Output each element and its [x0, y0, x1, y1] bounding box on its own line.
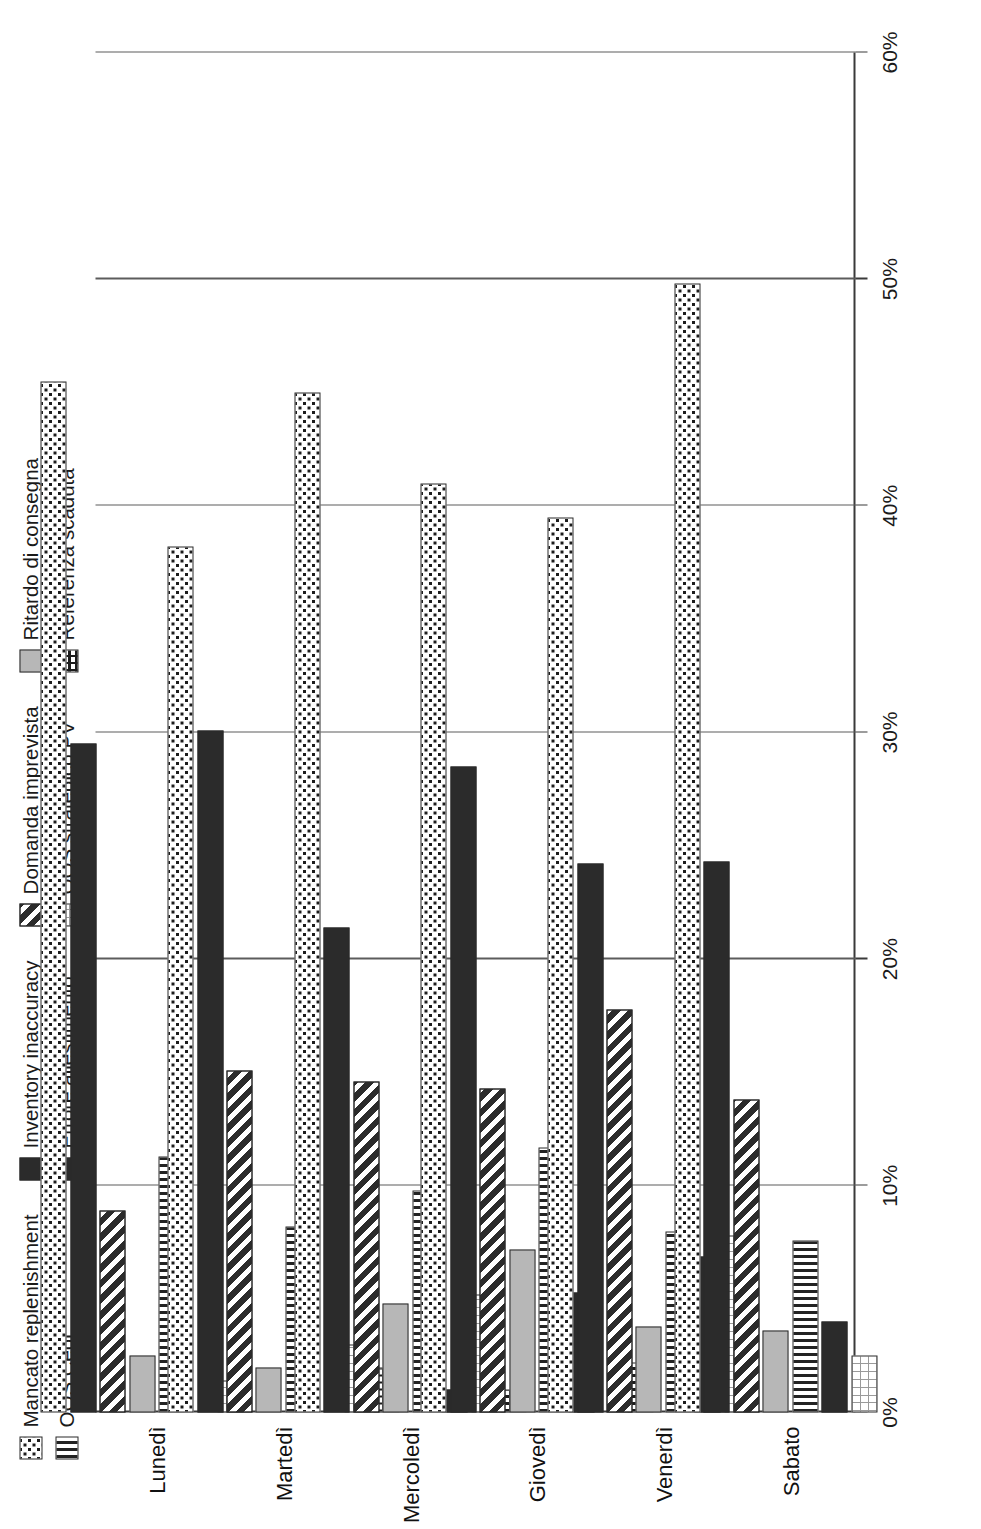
- legend-item: Domanda imprevista: [18, 706, 42, 926]
- axis-tick-label: 60%: [877, 31, 901, 73]
- axis-tick-label: 10%: [877, 1164, 901, 1206]
- legend-item-label: Domanda imprevista: [18, 706, 42, 894]
- bar-segment: [577, 863, 603, 1412]
- legend-item: Inventory inaccuracy: [18, 960, 42, 1180]
- bar-segment: [255, 1367, 281, 1412]
- category-label: Venerdì: [651, 1426, 677, 1502]
- bar-segment: [197, 730, 223, 1412]
- bar-segment: [821, 1321, 847, 1412]
- legend-item: Ritardo di consegna: [18, 458, 42, 672]
- bar-row: Sabato: [728, 52, 855, 1412]
- category-label: Lunedì: [144, 1426, 170, 1493]
- legend-item: Mancato replenishment: [18, 1214, 42, 1459]
- axis-tick-label: 40%: [877, 484, 901, 526]
- axis-tick-label: 0%: [877, 1397, 901, 1427]
- legend-swatch-icon: [19, 903, 42, 926]
- bar-segment: [450, 766, 476, 1412]
- legend-swatch-icon: [19, 1436, 42, 1459]
- category-label: Sabato: [778, 1426, 804, 1496]
- bar-segment: [851, 1355, 877, 1412]
- axis-tick: [855, 277, 867, 278]
- legend-item-label: Ritardo di consegna: [18, 458, 42, 640]
- bar-segment: [40, 381, 66, 1412]
- axis-tick: [855, 504, 867, 505]
- bar-segment: [479, 1088, 505, 1412]
- category-label: Mercoledì: [398, 1426, 424, 1523]
- bar-segment: [129, 1355, 155, 1412]
- bar-segment: [509, 1249, 535, 1412]
- category-label: Giovedì: [524, 1426, 550, 1502]
- bar-segment: [323, 927, 349, 1412]
- bar-segment: [703, 861, 729, 1412]
- bar-segment: [733, 1099, 759, 1412]
- bar-segment: [294, 392, 320, 1412]
- bar-segment: [547, 517, 573, 1412]
- plot-area: 0%10%20%30%40%50%60% LunedìMartedìMercol…: [95, 52, 855, 1412]
- legend-swatch-icon: [55, 1436, 78, 1459]
- axis-tick: [855, 51, 867, 52]
- bar-segment: [382, 1303, 408, 1412]
- bar-segment: [99, 1210, 125, 1412]
- bar-segment: [70, 743, 96, 1412]
- axis-tick: [855, 731, 867, 732]
- bar-segment: [792, 1240, 818, 1412]
- axis-tick-label: 30%: [877, 711, 901, 753]
- bar-segment: [762, 1330, 788, 1412]
- category-label: Martedì: [271, 1426, 297, 1501]
- bar-segment: [167, 546, 193, 1412]
- bar-segment: [226, 1070, 252, 1412]
- legend-swatch-icon: [19, 1157, 42, 1180]
- chart-stage: Mancato replenishmentOOS CediInventory i…: [0, 0, 981, 1529]
- legend-item-label: Mancato replenishment: [18, 1214, 42, 1427]
- legend-item-label: Inventory inaccuracy: [18, 960, 42, 1148]
- axis-tick-label: 50%: [877, 258, 901, 300]
- axis-tick: [855, 957, 867, 958]
- bar-segment: [635, 1326, 661, 1412]
- axis-tick-label: 20%: [877, 938, 901, 980]
- bar-segment: [674, 283, 700, 1412]
- bar-segment: [420, 483, 446, 1412]
- bar-rows: LunedìMartedìMercoledìGiovedìVenerdìSaba…: [95, 52, 855, 1412]
- bar-segment: [606, 1009, 632, 1412]
- axis-tick: [855, 1184, 867, 1185]
- bar-segment: [353, 1081, 379, 1412]
- legend-swatch-icon: [19, 649, 42, 672]
